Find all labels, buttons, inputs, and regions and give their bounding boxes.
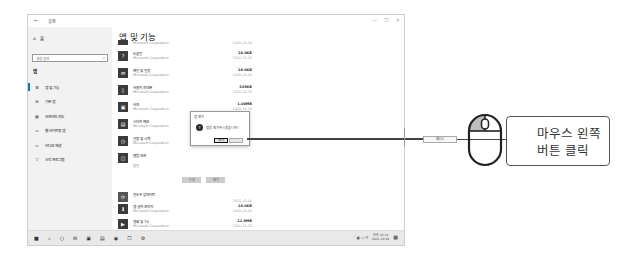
store-icon[interactable]: ▣ [86,235,91,242]
sidebar-item-apps-features[interactable]: ☰ 앱 및 기능 [28,80,112,95]
home-label: 홈 [40,35,44,41]
sidebar-home[interactable]: ⌂ 홈 [33,35,44,41]
map-icon: ▦ [34,114,40,119]
help-app-icon: ? [118,51,128,61]
app-size: 16.0KB [238,51,252,55]
app-publisher: Microsoft Corporation [133,73,169,77]
phone-app-icon: ▯ [118,85,128,95]
sidebar-item-default-apps[interactable]: ⊞ 기본 앱 [28,95,112,110]
callout-text-line1: 마우스 왼쪽 [537,125,601,142]
sidebar-item-label: 오프라인 지도 [45,114,64,119]
back-arrow-icon[interactable]: ← [34,17,38,23]
title-bar: ← 설정 — ☐ ✕ [28,15,404,27]
app-publisher: Microsoft Corporation [133,224,169,228]
movies-tv-icon: ▶ [118,219,128,229]
sidebar-item-startup[interactable]: ▽ 시작 프로그램 [28,153,112,168]
button-label-callout: 예(Y) [423,136,457,143]
search-icon[interactable]: ⌕ [48,235,51,242]
browser-icon[interactable]: ◉ [114,235,118,242]
mail-app-icon: ✉ [118,68,128,78]
app-date: 2020-11-25 [233,90,252,94]
task-view-icon[interactable]: ⊟ [73,235,77,242]
dialog-title: 앱 제거 [194,114,204,119]
section-label: 앱 [33,68,37,74]
search-icon: ⌕ [103,55,105,60]
app-options-link[interactable]: 옵션 [133,163,139,168]
start-icon[interactable]: ■ [34,235,39,242]
app-date: 2020-11-26 [233,209,252,213]
app-action-buttons: 수정 제거 [182,177,225,183]
explorer-icon[interactable]: ▤ [100,235,105,242]
callout-text: 마우스 왼쪽 버튼 클릭 [537,125,601,159]
app-name: 앨범 보관 [133,153,146,158]
system-tray-icons[interactable]: ⌃ ▣ ◁ 가 [353,235,368,240]
yes-button[interactable]: 예(Y) [214,138,228,143]
app-publisher: Microsoft Corporation [133,107,169,111]
album-app-icon: ◫ [118,153,128,163]
minimize-button[interactable]: — [372,17,377,23]
app-size: 11.8MB [237,219,252,223]
sidebar-item-web-apps[interactable]: ▭ 웹 사이트용 앱 [28,124,112,139]
sidebar-item-label: 기본 앱 [45,99,55,104]
app-publisher: Microsoft Corporation [133,124,169,128]
settings-gear-icon[interactable]: ⚙ [141,235,145,242]
installer-app-icon: ⬇ [118,204,128,214]
sticky-notes-icon: ▤ [118,119,128,129]
callout-text-line2: 버튼 클릭 [537,142,601,159]
app-name: 윈도우 업데이트 [133,192,155,197]
no-button[interactable] [229,138,243,143]
sidebar-item-label: 웹 사이트용 앱 [45,128,65,133]
startup-icon: ▽ [34,157,40,162]
app-publisher: Microsoft Corporation [133,56,169,60]
search-input[interactable]: 설정 검색 ⌕ [32,54,108,62]
app-size: 328KB [239,85,252,89]
app-publisher: Microsoft Corporation [133,41,169,45]
mouse-click-callout: 마우스 왼쪽 버튼 클릭 [506,116,610,166]
close-button[interactable]: ✕ [396,17,400,23]
app-date: 2020-11-26 [233,73,252,77]
app-list-item[interactable]: ▯ 사용자 휴대폰 Microsoft Corporation 328KB 20… [118,84,252,98]
mouse-left-click-icon [465,112,505,168]
question-icon: ? [196,124,203,131]
default-apps-icon: ⊞ [34,99,40,104]
app-size: 16.0KB [238,68,252,72]
sidebar: ⌂ 홈 설정 검색 ⌕ 앱 ☰ 앱 및 기능 ⊞ 기본 앱 ▦ 오프라인 지도 … [28,27,112,231]
app-publisher: Microsoft Corporation [133,209,169,213]
app-list-item[interactable]: ⬇ 앱 설치 관리자 Microsoft Corporation 16.0KB … [118,203,252,217]
app-icon [118,40,128,45]
clock-date: 2021-10-04 [372,237,389,241]
app-date: 2020-11-25 [233,224,252,228]
taskbar: ■ ⌕ ○ ⊟ ▣ ▤ ◉ ☐ ⚙ ⌃ ▣ ◁ 가 오후 10:14 2021-… [28,230,404,245]
app-list-item[interactable]: ? 도움말 Microsoft Corporation 16.0KB 2020-… [118,50,252,64]
sidebar-item-label: 앱 및 기능 [45,85,59,90]
app-publisher: Microsoft Corporation [133,90,169,94]
dialog-message: 앱을 제거하시겠습니까? [206,126,239,130]
app-date: 2020-11-26 [233,56,252,60]
app-list-item-selected[interactable]: ◫ 앨범 보관 옵션 [118,152,252,166]
window-edge-line [404,128,405,146]
sidebar-item-video-playback[interactable]: ▭ 비디오 재생 [28,138,112,153]
app-list-item[interactable]: ✉ 메일 및 일정 Microsoft Corporation 16.0KB 2… [118,67,252,81]
update-app-icon: ⟳ [118,192,128,202]
search-placeholder: 설정 검색 [36,57,49,61]
modify-button[interactable]: 수정 [182,177,201,183]
cortana-icon[interactable]: ○ [60,235,64,242]
video-icon: ▭ [34,143,40,148]
window-title: 설정 [48,18,56,24]
callout-connector-line [247,138,423,140]
uninstall-confirm-dialog: 앱 제거 ? 앱을 제거하시겠습니까? 예(Y) [190,111,250,146]
sidebar-item-label: 시작 프로그램 [45,157,64,162]
sidebar-item-offline-maps[interactable]: ▦ 오프라인 지도 [28,109,112,124]
alarm-clock-icon: ◷ [118,136,128,146]
app-icon[interactable]: ☐ [127,235,131,242]
home-icon: ⌂ [33,36,36,41]
maximize-button[interactable]: ☐ [384,17,388,23]
web-apps-icon: ▭ [34,128,40,133]
clock[interactable]: 오후 10:14 2021-10-04 [372,233,389,241]
app-size: 1.06MB [237,102,252,106]
notification-icon[interactable]: ▩ [393,234,398,240]
app-size: 16.0KB [238,204,252,208]
photos-app-icon: ▣ [118,102,128,112]
uninstall-button[interactable]: 제거 [206,177,225,183]
apps-list-icon: ☰ [34,85,40,90]
